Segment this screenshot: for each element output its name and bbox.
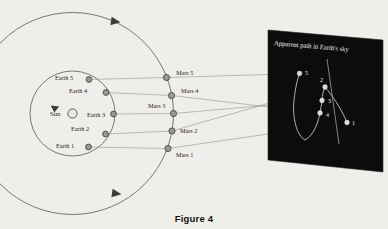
mars-label-2: Mars 2	[180, 127, 197, 134]
sky-label-1: 1	[352, 120, 355, 126]
orbit-direction-arrows	[50, 17, 122, 199]
sky-dot-2	[323, 85, 328, 90]
mars-dot-3	[170, 110, 176, 116]
mars-orbit-arrow-bottom-icon	[111, 189, 122, 199]
mars-dot-5	[163, 74, 169, 80]
mars-dot-4	[168, 92, 174, 98]
earth-label-5: Earth 5	[55, 74, 73, 81]
sky-label-2: 2	[320, 77, 323, 83]
sky-dot-4	[318, 111, 323, 116]
sky-panel-group: Apparent path in Earth's sky 1 2 3 4 5	[268, 30, 383, 172]
earth-label-1: Earth 1	[56, 142, 74, 149]
earth-dot-1	[86, 144, 92, 150]
mars-label-5: Mars 5	[176, 69, 193, 76]
sky-panel-face	[268, 30, 383, 172]
sky-label-5: 5	[305, 70, 308, 76]
sky-dot-1	[345, 120, 350, 125]
sky-label-3: 3	[328, 98, 331, 104]
earth-label-3: Earth 3	[87, 111, 105, 118]
mars-dot-1	[165, 145, 171, 151]
earth-dot-4	[103, 90, 109, 96]
earth-dot-2	[103, 131, 109, 137]
earth-label-4: Earth 4	[69, 87, 87, 94]
sky-label-4: 4	[326, 112, 329, 118]
sun-group: Sun	[50, 109, 77, 118]
mars-dot-2	[169, 128, 175, 134]
sun-label: Sun	[50, 110, 61, 117]
sun-marker	[68, 109, 77, 118]
mars-label-4: Mars 4	[181, 87, 198, 94]
figure-canvas: Sun Earth 1 Earth 2 Earth 3 Earth 4 Eart…	[0, 0, 388, 229]
sky-dot-5	[297, 71, 302, 76]
earth-label-2: Earth 2	[71, 125, 89, 132]
mars-label-3: Mars 3	[148, 102, 165, 109]
earth-dot-3	[111, 111, 117, 117]
earth-dot-5	[86, 77, 92, 83]
sky-dot-3	[320, 98, 325, 103]
mars-orbit-arrow-top-icon	[110, 17, 121, 27]
mars-label-1: Mars 1	[176, 151, 193, 158]
figure-caption: Figure 4	[0, 213, 388, 224]
